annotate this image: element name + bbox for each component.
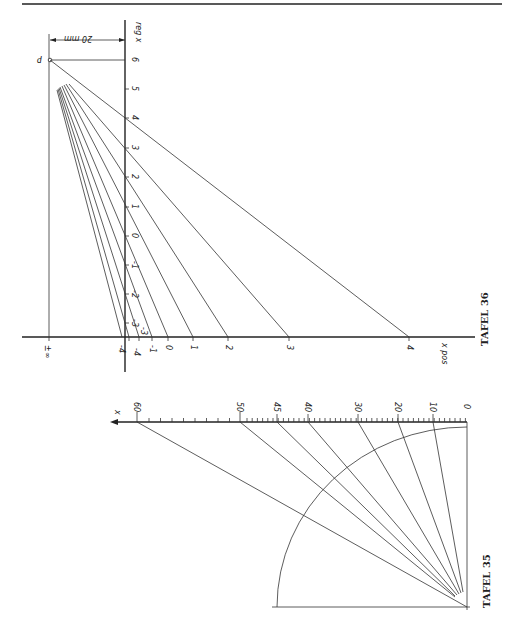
svg-text:40: 40 [303,402,312,412]
svg-text:-2: -2 [130,290,139,298]
tafel-36-nomogram: 20 mm P reg x 6 5 4 3 2 1 0 -1 -2 -3 [22,20,490,372]
fan-lines [50,60,409,337]
point-p-label: P [37,54,42,63]
tafel-35-nomogram: x 60 50 45 40 30 20 10 0 [110,402,492,610]
vertical-tick-labels: 6 5 4 3 2 1 0 -1 -2 -3 [130,57,139,327]
svg-text:4: 4 [405,345,414,350]
svg-text:-3: -3 [139,327,148,335]
svg-text:2: 2 [130,174,139,179]
svg-text:2: 2 [224,345,233,350]
svg-text:1: 1 [130,204,139,209]
svg-text:3: 3 [285,345,294,350]
tafel-36-caption: TAFEL 36 [479,292,490,346]
major-ticks [137,412,433,422]
svg-text:1: 1 [189,345,198,350]
dimension-arrow-left-icon [50,38,56,42]
scale-axis-label: x [113,409,122,415]
svg-text:0: 0 [164,345,173,350]
svg-text:45: 45 [272,402,281,412]
page-figure: 20 mm P reg x 6 5 4 3 2 1 0 -1 -2 -3 [0,0,510,628]
svg-text:50: 50 [235,402,244,412]
svg-text:60: 60 [132,402,141,412]
dimension-label: 20 mm [64,34,93,43]
fan-lines [137,422,467,607]
horizontal-tick-labels: ±∞ -4 -4 -3 -1 0 1 2 3 4 [43,327,414,358]
svg-text:-4: -4 [132,348,141,356]
svg-text:-1: -1 [148,345,157,353]
dimension-arrow-right-icon [119,38,125,42]
vertical-axis-label: reg x [134,22,143,43]
svg-text:-4: -4 [117,345,126,353]
svg-text:0: 0 [130,233,139,238]
svg-text:30: 30 [353,402,362,412]
svg-text:±∞: ±∞ [43,345,52,358]
svg-text:4: 4 [130,115,139,120]
svg-text:10: 10 [428,402,437,412]
svg-text:6: 6 [130,57,139,62]
axis-arrow-icon [110,419,118,425]
svg-text:3: 3 [130,145,139,150]
tafel-35-caption: TAFEL 35 [481,554,492,608]
horizontal-axis-label: x pos [440,342,449,364]
svg-text:5: 5 [130,86,139,91]
svg-text:20: 20 [393,402,402,412]
svg-text:0: 0 [462,404,471,409]
scale-tick-labels: 60 50 45 40 30 20 10 0 [132,402,471,412]
